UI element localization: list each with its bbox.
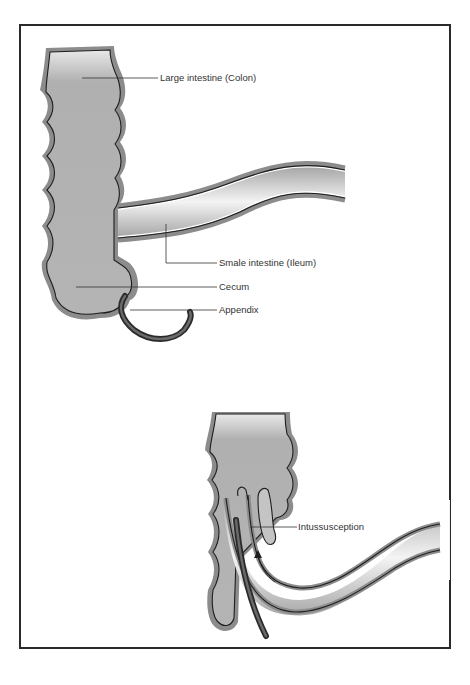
diagram-canvas [0, 0, 470, 685]
label-ileum: Smale intestine (Ileum) [219, 257, 316, 268]
colon-shape [40, 46, 138, 319]
label-appendix: Appendix [219, 304, 259, 315]
appendix-shape [121, 296, 191, 339]
label-cecum: Cecum [219, 281, 249, 292]
label-colon: Large intestine (Colon) [160, 72, 256, 83]
ileum-shape [118, 150, 360, 240]
normal-anatomy-figure [40, 46, 360, 339]
label-intussusception: Intussusception [298, 521, 364, 532]
